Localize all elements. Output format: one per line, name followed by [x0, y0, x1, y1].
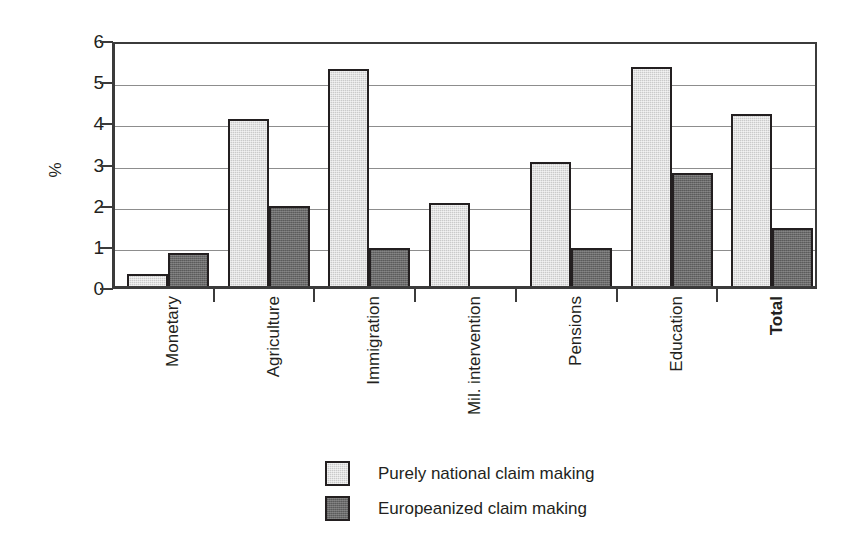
- bar[interactable]: [672, 173, 713, 286]
- legend-swatch: [325, 496, 350, 521]
- x-axis-category-label: Immigration: [363, 296, 385, 436]
- bar[interactable]: [127, 274, 168, 286]
- legend-item[interactable]: Purely national claim making: [325, 458, 655, 489]
- y-axis-tick-label: 2: [70, 197, 104, 216]
- legend-item[interactable]: Europeanized claim making: [325, 493, 655, 524]
- bar[interactable]: [228, 119, 269, 286]
- y-axis-tick-label: 5: [70, 73, 104, 92]
- bar[interactable]: [772, 228, 813, 286]
- x-axis-category-label: Agriculture: [263, 296, 285, 436]
- bar[interactable]: [571, 248, 612, 286]
- x-axis-category-label: Education: [666, 296, 688, 436]
- bar-group: [731, 44, 813, 286]
- y-axis-tick-label: 1: [70, 238, 104, 257]
- y-axis-tick-label: 4: [70, 114, 104, 133]
- bar-group: [127, 44, 209, 286]
- x-axis-category-label: Pensions: [565, 296, 587, 436]
- legend-swatch: [325, 461, 350, 486]
- x-axis-category-label: Monetary: [162, 296, 184, 436]
- bar-group: [328, 44, 410, 286]
- y-axis-tick-label: 0: [70, 279, 104, 298]
- bar[interactable]: [631, 67, 672, 286]
- bar[interactable]: [168, 253, 209, 286]
- legend-label: Europeanized claim making: [378, 499, 587, 519]
- bar-group: [429, 44, 511, 286]
- bar-group: [631, 44, 713, 286]
- bar[interactable]: [530, 162, 571, 286]
- bar-group: [530, 44, 612, 286]
- bar-chart-figure: % 0123456 MonetaryAgricultureImmigration…: [0, 0, 858, 551]
- bar-group: [228, 44, 310, 286]
- plot-area: [112, 42, 817, 289]
- bar[interactable]: [731, 114, 772, 286]
- bars-layer: [115, 44, 815, 286]
- bar[interactable]: [369, 248, 410, 286]
- bar[interactable]: [269, 206, 310, 286]
- y-axis-tick-label: 6: [70, 32, 104, 51]
- x-axis-category-label: Mil. intervention: [464, 296, 486, 436]
- x-axis-category-label: Total: [766, 296, 788, 436]
- x-axis-category-labels: MonetaryAgricultureImmigrationMil. inter…: [112, 296, 817, 436]
- legend: Purely national claim makingEuropeanized…: [325, 458, 655, 528]
- y-axis-tick-label: 3: [70, 156, 104, 175]
- legend-label: Purely national claim making: [378, 464, 594, 484]
- bar[interactable]: [429, 203, 470, 286]
- bar[interactable]: [328, 69, 369, 286]
- y-axis-tick-labels: 0123456: [60, 42, 104, 289]
